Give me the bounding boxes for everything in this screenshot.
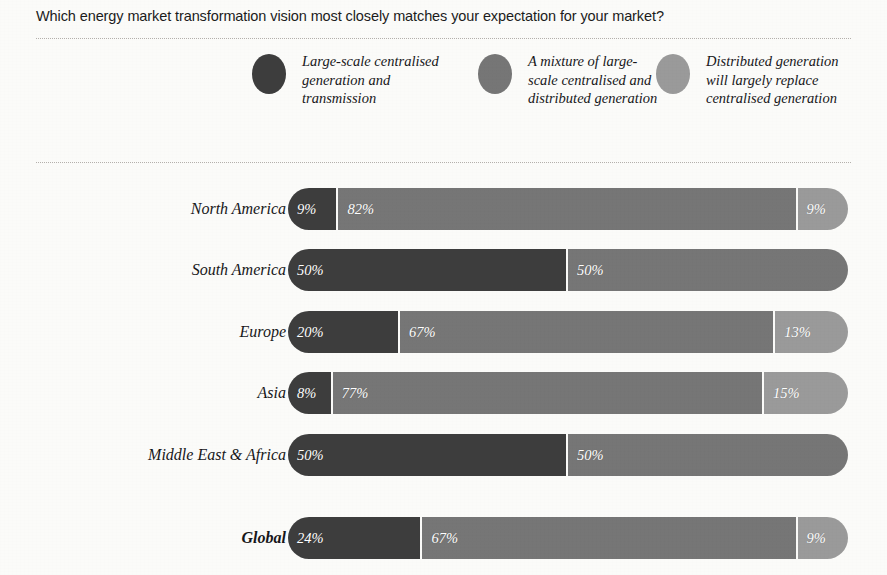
bar-segment: 24% — [288, 517, 422, 559]
row-label: Global — [242, 529, 286, 547]
bar-segment: 67% — [400, 311, 775, 353]
bar-segment: 82% — [338, 188, 797, 230]
bar-segment-label: 50% — [288, 262, 324, 279]
bar-segment-label: 50% — [288, 447, 324, 464]
bar-segment-label: 13% — [775, 324, 811, 341]
chart-row: Asia8%77%15% — [0, 372, 887, 414]
chart-row: South America50%50% — [0, 249, 887, 291]
chart-row: Middle East & Africa50%50% — [0, 434, 887, 476]
bar-segment: 77% — [333, 372, 764, 414]
bar-segment: 50% — [568, 249, 848, 291]
bar-segment: 9% — [288, 188, 338, 230]
bar-segment-label: 50% — [568, 447, 604, 464]
bar-segment-label: 20% — [288, 324, 324, 341]
bar-segment-label: 9% — [288, 201, 316, 218]
bar-segment: 50% — [288, 249, 568, 291]
bar-segment-label: 67% — [422, 530, 458, 547]
row-label: Europe — [239, 323, 286, 341]
bar-segment-label: 15% — [764, 385, 800, 402]
bar-segment: 67% — [422, 517, 797, 559]
row-label: South America — [192, 261, 286, 279]
row-label: Asia — [258, 384, 286, 402]
chart-rows: North America9%82%9%South America50%50%E… — [0, 0, 887, 575]
bar-segment-label: 9% — [798, 530, 826, 547]
bar-segment: 9% — [798, 517, 848, 559]
bar-segment: 9% — [798, 188, 848, 230]
bar-segment-label: 77% — [333, 385, 369, 402]
bar-segment: 15% — [764, 372, 848, 414]
bar-segment-label: 8% — [288, 385, 316, 402]
stacked-bar: 8%77%15% — [288, 372, 848, 414]
chart-row: Europe20%67%13% — [0, 311, 887, 353]
stacked-bar: 20%67%13% — [288, 311, 848, 353]
chart-row: North America9%82%9% — [0, 188, 887, 230]
bar-segment: 13% — [775, 311, 848, 353]
bar-segment: 50% — [568, 434, 848, 476]
stacked-bar: 50%50% — [288, 434, 848, 476]
bar-segment: 50% — [288, 434, 568, 476]
bar-segment-label: 9% — [798, 201, 826, 218]
bar-segment-label: 67% — [400, 324, 436, 341]
row-label: North America — [191, 200, 286, 218]
chart-page: Which energy market transformation visio… — [0, 0, 887, 575]
row-label: Middle East & Africa — [148, 446, 286, 464]
bar-segment: 8% — [288, 372, 333, 414]
bar-segment-label: 50% — [568, 262, 604, 279]
bar-segment-label: 82% — [338, 201, 374, 218]
bar-segment: 20% — [288, 311, 400, 353]
stacked-bar: 9%82%9% — [288, 188, 848, 230]
stacked-bar: 50%50% — [288, 249, 848, 291]
stacked-bar: 24%67%9% — [288, 517, 848, 559]
chart-row: Global24%67%9% — [0, 517, 887, 559]
bar-segment-label: 24% — [288, 530, 324, 547]
